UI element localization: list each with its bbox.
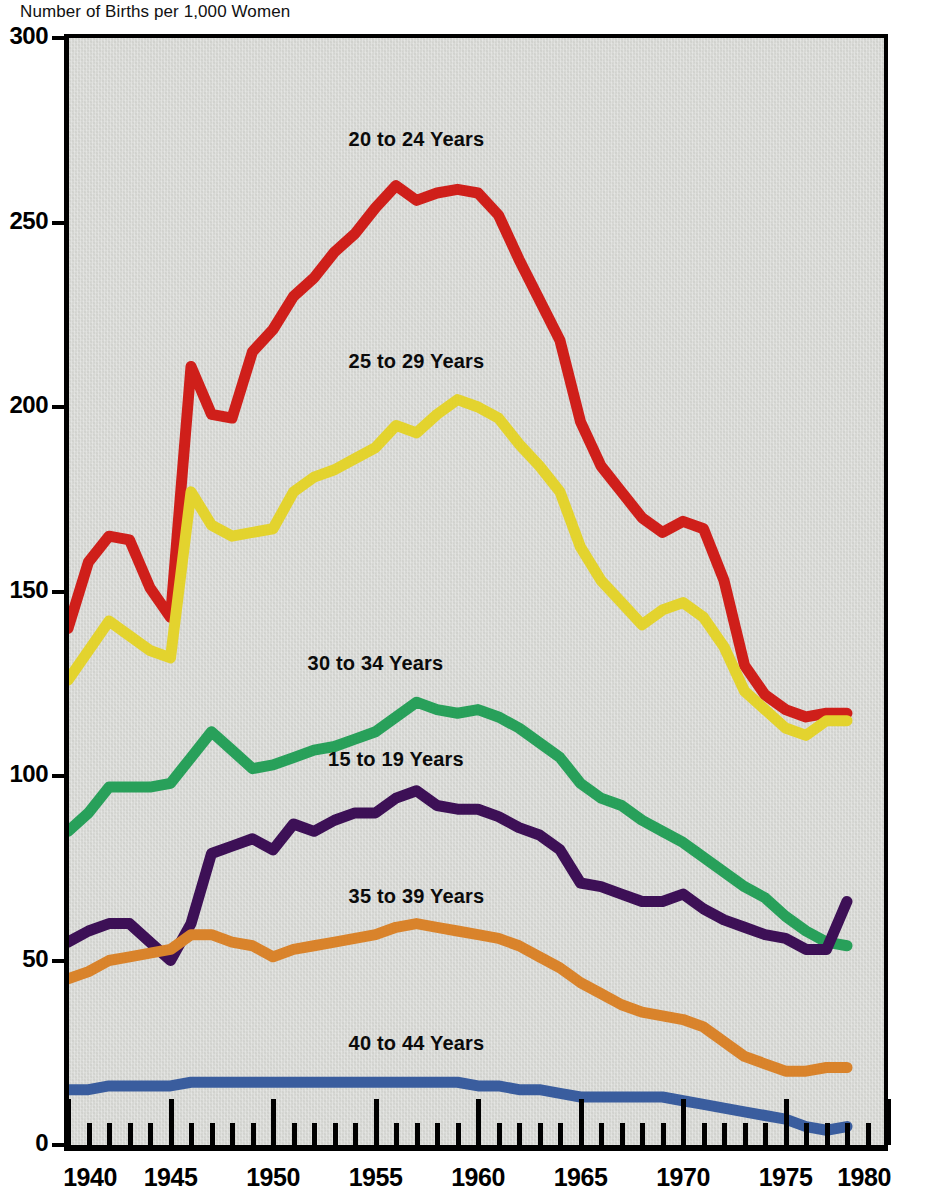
x-tick-1954 [353, 1123, 358, 1145]
x-tick-1968 [640, 1123, 645, 1145]
x-tick-1977 [825, 1123, 830, 1145]
series-label-20-to-24-years: 20 to 24 Years [349, 128, 485, 151]
x-tick-1957 [415, 1123, 420, 1145]
x-tick-1952 [312, 1123, 317, 1145]
x-tick-1976 [804, 1123, 809, 1145]
x-tick-1950 [271, 1099, 276, 1145]
x-tick-1947 [210, 1123, 215, 1145]
x-tick-1945 [169, 1099, 174, 1145]
series-label-30-to-34-years: 30 to 34 Years [308, 652, 444, 675]
x-tick-1978 [845, 1123, 850, 1145]
x-tick-1970 [681, 1099, 686, 1145]
x-tick-1967 [620, 1123, 625, 1145]
x-tick-1962 [517, 1123, 522, 1145]
x-tick-label-1960: 1960 [451, 1163, 505, 1192]
x-tick-label-1975: 1975 [759, 1163, 813, 1192]
y-tick-250 [52, 221, 66, 225]
y-tick-200 [52, 405, 66, 409]
y-tick-label-50: 50 [0, 945, 48, 973]
x-tick-1974 [763, 1123, 768, 1145]
x-tick-1969 [661, 1123, 666, 1145]
x-tick-1942 [107, 1123, 112, 1145]
y-tick-label-300: 300 [0, 22, 48, 50]
x-tick-1946 [189, 1123, 194, 1145]
x-tick-label-1945: 1945 [144, 1163, 198, 1192]
x-tick-1958 [435, 1123, 440, 1145]
y-tick-150 [52, 590, 66, 594]
x-tick-1953 [333, 1123, 338, 1145]
x-tick-1961 [497, 1123, 502, 1145]
x-tick-1965 [579, 1099, 584, 1145]
plot-area [68, 38, 888, 1145]
x-tick-1964 [558, 1123, 563, 1145]
x-tick-1956 [394, 1123, 399, 1145]
y-tick-label-200: 200 [0, 391, 48, 419]
y-tick-0 [52, 1143, 66, 1147]
x-tick-1959 [456, 1123, 461, 1145]
series-line-20-to-24-years [68, 186, 847, 717]
x-tick-1973 [743, 1123, 748, 1145]
x-tick-label-1965: 1965 [554, 1163, 608, 1192]
x-tick-label-1970: 1970 [656, 1163, 710, 1192]
series-layer [68, 38, 888, 1145]
series-label-35-to-39-years: 35 to 39 Years [349, 885, 485, 908]
plot-right-rule [884, 34, 888, 1149]
y-tick-100 [52, 774, 66, 778]
x-tick-1966 [599, 1123, 604, 1145]
x-tick-label-1955: 1955 [349, 1163, 403, 1192]
x-tick-label-1950: 1950 [246, 1163, 300, 1192]
x-tick-1951 [292, 1123, 297, 1145]
x-tick-1944 [148, 1123, 153, 1145]
series-label-25-to-29-years: 25 to 29 Years [349, 350, 485, 373]
x-tick-label-1940: 1940 [63, 1163, 117, 1192]
series-label-40-to-44-years: 40 to 44 Years [349, 1032, 485, 1055]
y-tick-label-100: 100 [0, 760, 48, 788]
plot-top-rule [64, 34, 888, 38]
x-tick-1948 [230, 1123, 235, 1145]
x-tick-1941 [87, 1123, 92, 1145]
x-tick-1940 [66, 1099, 71, 1145]
x-tick-1979 [866, 1123, 871, 1145]
series-line-30-to-34-years [68, 702, 847, 946]
chart-title: Number of Births per 1,000 Women [20, 2, 290, 22]
y-tick-300 [52, 36, 66, 40]
x-axis-line [64, 1145, 888, 1151]
x-tick-1975 [784, 1099, 789, 1145]
x-tick-1963 [538, 1123, 543, 1145]
y-tick-label-250: 250 [0, 207, 48, 235]
birth-rate-chart-figure: Number of Births per 1,000 Women 0501001… [0, 0, 926, 1194]
y-tick-label-0: 0 [0, 1129, 48, 1157]
y-tick-50 [52, 959, 66, 963]
x-tick-1955 [374, 1099, 379, 1145]
series-label-15-to-19-years: 15 to 19 Years [328, 748, 464, 771]
x-tick-label-1980: 1980 [837, 1163, 891, 1192]
x-tick-1972 [722, 1123, 727, 1145]
y-tick-label-150: 150 [0, 576, 48, 604]
x-tick-1971 [702, 1123, 707, 1145]
x-tick-1960 [476, 1099, 481, 1145]
x-tick-1980 [886, 1099, 891, 1145]
x-tick-1949 [251, 1123, 256, 1145]
x-tick-1943 [128, 1123, 133, 1145]
